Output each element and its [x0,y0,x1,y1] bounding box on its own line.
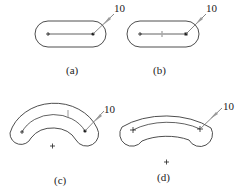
dimension-label-a: 10 [114,2,126,14]
dimension-label-b: 10 [206,2,218,14]
slot-centerline-d [133,122,200,130]
caption-c: (c) [54,174,67,187]
dimension-label-c: 10 [104,103,116,115]
slot-figure: 10 (a) 10 (b) 10 (c) [0,0,244,195]
caption-a: (a) [66,64,79,77]
slot-outline-d [120,116,213,147]
arrow-icon-c [94,114,102,122]
start-point-c [20,130,24,134]
start-point-b [138,32,142,36]
arc-center-point-d [164,160,169,165]
leader-line-d [200,108,222,129]
slot-outline-c [10,103,99,146]
panel-b: 10 (b) [127,2,218,77]
slot-centerline-c [22,115,85,132]
leader-line-a [93,14,114,34]
start-point-d [130,127,136,133]
arrow-icon-a [103,17,111,25]
panel-c: 10 (c) [10,103,116,187]
caption-d: (d) [157,171,170,184]
dimension-label-d: 10 [223,100,235,112]
leader-line-c [85,111,104,131]
arc-center-point-c [50,144,55,149]
start-point-a [46,32,50,36]
arrow-icon-b [195,17,203,25]
panel-d: 10 (d) [120,100,235,184]
panel-a: 10 (a) [35,2,126,77]
caption-b: (b) [153,64,166,77]
arrow-icon-d [210,112,218,119]
